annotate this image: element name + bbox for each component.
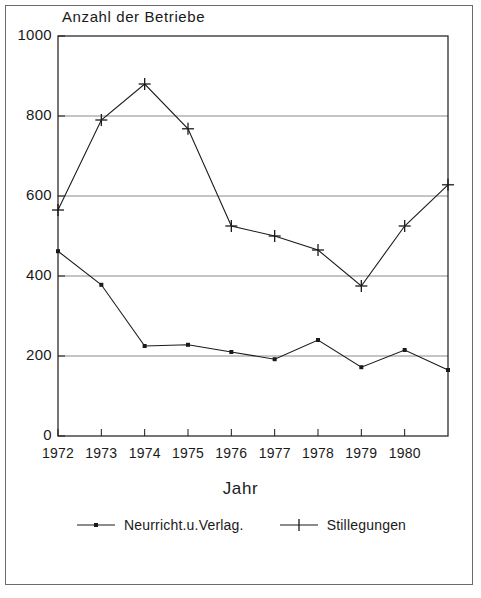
legend-entry[interactable]: Neurricht.u.Verlag. xyxy=(75,517,244,533)
x-axis-title: Jahr xyxy=(0,479,481,499)
y-axis-ticks xyxy=(58,36,65,436)
series-line xyxy=(58,84,448,286)
dot-marker xyxy=(99,283,103,287)
y-tick-label: 600 xyxy=(4,186,52,203)
plot-border xyxy=(58,36,448,436)
dot-marker xyxy=(273,357,277,361)
dot-marker xyxy=(446,368,450,372)
plus-marker-icon xyxy=(278,517,320,533)
y-tick-label: 1000 xyxy=(4,26,52,43)
x-axis-ticks xyxy=(58,429,405,436)
y-tick-label: 0 xyxy=(4,426,52,443)
y-tick-label: 400 xyxy=(4,266,52,283)
legend-label: Stillegungen xyxy=(327,517,406,533)
dot-marker xyxy=(359,365,363,369)
data-series-layer xyxy=(52,78,454,372)
series-plus xyxy=(52,78,454,292)
x-tick-label: 1980 xyxy=(379,445,431,461)
dot-marker xyxy=(316,338,320,342)
legend-label: Neurricht.u.Verlag. xyxy=(124,517,244,533)
dot-marker xyxy=(143,344,147,348)
plot-area xyxy=(0,0,481,598)
y-tick-label: 200 xyxy=(4,346,52,363)
legend-entry[interactable]: Stillegungen xyxy=(278,517,406,533)
series-line xyxy=(58,251,448,370)
axis-frame xyxy=(58,36,448,436)
y-tick-label: 800 xyxy=(4,106,52,123)
dot-marker xyxy=(186,343,190,347)
dot-marker xyxy=(56,249,60,253)
chart-legend: Neurricht.u.Verlag.Stillegungen xyxy=(0,517,481,533)
dot-marker-icon xyxy=(75,517,117,533)
dot-marker xyxy=(229,350,233,354)
chart-figure: Anzahl der Betriebe 02004006008001000 19… xyxy=(0,0,481,598)
series-square-dot xyxy=(56,249,450,372)
gridlines xyxy=(58,116,448,356)
dot-marker xyxy=(403,348,407,352)
